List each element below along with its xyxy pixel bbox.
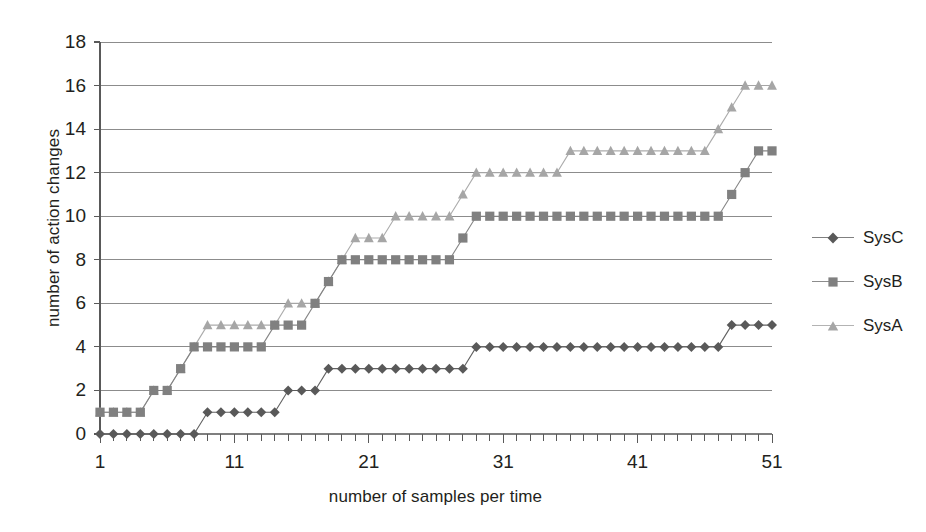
data-point-diamond <box>498 342 508 352</box>
data-point-diamond <box>633 342 643 352</box>
data-point-square <box>176 364 185 373</box>
data-point-diamond <box>646 342 656 352</box>
data-point-diamond <box>270 407 280 417</box>
data-point-diamond <box>283 385 293 395</box>
data-point-square <box>499 212 508 221</box>
data-point-square <box>687 212 696 221</box>
data-point-diamond <box>256 407 266 417</box>
data-point-square <box>163 386 172 395</box>
data-point-diamond <box>122 429 132 439</box>
data-point-square <box>122 408 131 417</box>
data-point-square <box>525 212 534 221</box>
data-point-triangle <box>458 189 468 198</box>
data-point-diamond <box>176 429 186 439</box>
x-tick-label-1: 1 <box>95 451 106 472</box>
y-tick-label-14: 14 <box>65 118 87 139</box>
data-point-square <box>673 212 682 221</box>
data-point-diamond <box>444 364 454 374</box>
data-point-diamond <box>552 342 562 352</box>
data-point-diamond <box>337 364 347 374</box>
data-point-diamond <box>458 364 468 374</box>
data-point-diamond <box>659 342 669 352</box>
data-point-diamond <box>673 342 683 352</box>
data-point-square <box>243 342 252 351</box>
data-point-square <box>270 321 279 330</box>
data-point-square <box>593 212 602 221</box>
data-point-diamond <box>431 364 441 374</box>
data-point-square <box>95 408 104 417</box>
data-point-square <box>539 212 548 221</box>
data-point-diamond <box>189 429 199 439</box>
legend-sample-sysb <box>812 275 854 289</box>
y-tick-label-10: 10 <box>65 205 86 226</box>
data-point-triangle <box>713 124 723 133</box>
data-point-diamond <box>377 364 387 374</box>
data-point-diamond <box>108 429 118 439</box>
data-point-square <box>552 212 561 221</box>
data-point-diamond <box>229 407 239 417</box>
data-point-square <box>485 212 494 221</box>
series-line-sysa <box>100 86 772 413</box>
data-point-diamond <box>162 429 172 439</box>
square-marker <box>826 275 840 293</box>
data-point-diamond <box>391 364 401 374</box>
data-point-diamond <box>149 429 159 439</box>
legend-item-sysb[interactable]: SysB <box>812 260 922 304</box>
y-tick-label-6: 6 <box>75 292 86 313</box>
line-chart-plot: 02468101214161811121314151 <box>0 0 926 532</box>
data-point-square <box>216 342 225 351</box>
data-point-diamond <box>713 342 723 352</box>
x-tick-label-51: 51 <box>761 451 782 472</box>
data-point-diamond <box>404 364 414 374</box>
chart-legend: SysC SysB SysA <box>812 216 922 348</box>
data-point-square <box>109 408 118 417</box>
legend-label-sysa: SysA <box>863 316 903 336</box>
data-point-diamond <box>350 364 360 374</box>
data-point-square <box>149 386 158 395</box>
data-point-diamond <box>539 342 549 352</box>
data-point-square <box>620 212 629 221</box>
data-point-square <box>714 212 723 221</box>
triangle-marker <box>826 319 840 337</box>
diamond-marker <box>826 231 840 249</box>
legend-label-sysc: SysC <box>863 228 904 248</box>
y-tick-label-18: 18 <box>65 31 86 52</box>
data-point-square <box>727 190 736 199</box>
data-point-diamond <box>754 320 764 330</box>
data-point-diamond <box>579 342 589 352</box>
y-tick-label-2: 2 <box>75 379 86 400</box>
data-point-square <box>337 255 346 264</box>
data-point-triangle <box>727 102 737 111</box>
data-point-diamond <box>203 407 213 417</box>
data-point-diamond <box>485 342 495 352</box>
x-tick-label-11: 11 <box>225 451 245 472</box>
data-point-square <box>660 212 669 221</box>
y-tick-label-0: 0 <box>75 423 86 444</box>
data-point-diamond <box>512 342 522 352</box>
data-point-square <box>324 277 333 286</box>
data-point-square <box>472 212 481 221</box>
data-point-diamond <box>95 429 105 439</box>
data-point-diamond <box>767 320 777 330</box>
data-point-square <box>405 255 414 264</box>
data-point-diamond <box>297 385 307 395</box>
data-point-square <box>566 212 575 221</box>
y-tick-label-16: 16 <box>65 75 86 96</box>
data-point-square <box>257 342 266 351</box>
data-point-square <box>512 212 521 221</box>
data-point-square <box>431 255 440 264</box>
data-point-diamond <box>135 429 145 439</box>
data-point-diamond <box>216 407 226 417</box>
series-line-sysc <box>100 325 772 434</box>
chart-container: 02468101214161811121314151 number of act… <box>0 0 926 532</box>
data-point-diamond <box>740 320 750 330</box>
data-point-square <box>284 321 293 330</box>
data-point-square <box>297 321 306 330</box>
data-point-square <box>136 408 145 417</box>
data-point-diamond <box>619 342 629 352</box>
data-point-diamond <box>727 320 737 330</box>
data-point-square <box>633 212 642 221</box>
legend-item-sysa[interactable]: SysA <box>812 304 922 348</box>
x-tick-label-31: 31 <box>493 451 514 472</box>
legend-item-sysc[interactable]: SysC <box>812 216 922 260</box>
